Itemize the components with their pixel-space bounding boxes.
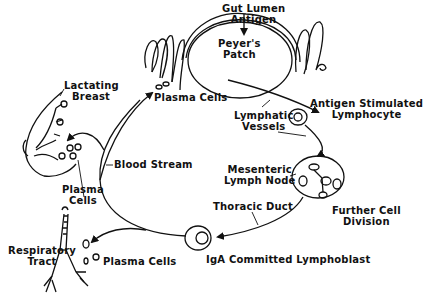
tract-label: Tract: [8, 256, 76, 267]
mesenteric-label: Mesenteric: [224, 164, 296, 175]
antigen-stimulated-lymphocyte-label: Antigen Stimulated Lymphocyte: [310, 98, 423, 120]
respiratory-label: Respiratory: [8, 245, 76, 256]
antigen-label: Antigen: [222, 14, 285, 25]
respiratory-tract-label: Respiratory Tract: [8, 245, 76, 267]
intestinal-villi-right: [296, 22, 326, 74]
antigen-stimulated-label: Antigen Stimulated: [310, 98, 423, 109]
gut-lumen-label: Gut Lumen: [222, 3, 285, 14]
peyers-label: Peyer's: [218, 38, 261, 49]
plasma-cells-resp-label: Plasma Cells: [103, 256, 176, 267]
lactating-breast-shape: [23, 92, 76, 176]
plasma-label: Plasma: [62, 184, 104, 195]
lymphatic-label: Lymphatic: [234, 110, 294, 121]
lymphatic-vessels-label: Lymphatic Vessels: [234, 110, 294, 132]
further-cell-label: Further Cell: [332, 205, 401, 216]
peyers-patch-label: Peyer's Patch: [218, 38, 261, 60]
mesenteric-lymph-node-label: Mesenteric Lymph Node: [224, 164, 296, 186]
vessels-label: Vessels: [234, 121, 294, 132]
lymph-node-label: Lymph Node: [224, 175, 296, 186]
lactating-label: Lactating: [64, 80, 119, 91]
peyers-patch-shape: [188, 22, 292, 98]
iga-lymphoblast-shape: [185, 226, 211, 250]
thoracic-duct-label: Thoracic Duct: [213, 201, 293, 212]
plasma-cells-breast-label: Plasma Cells: [62, 184, 104, 206]
division-label: Division: [332, 216, 401, 227]
gut-lumen-antigen-label: Gut Lumen Antigen: [222, 3, 285, 25]
iga-committed-lymphoblast-label: IgA Committed Lymphoblast: [206, 254, 370, 265]
breast-label: Breast: [64, 91, 119, 102]
patch-label: Patch: [218, 49, 261, 60]
cells-label: Cells: [62, 195, 104, 206]
plasma-cells-gut-label: Plasma Cells: [154, 92, 227, 103]
further-cell-division-label: Further Cell Division: [332, 205, 401, 227]
lymphocyte-label: Lymphocyte: [310, 109, 423, 120]
blood-stream-label: Blood Stream: [114, 159, 193, 170]
lactating-breast-label: Lactating Breast: [64, 80, 119, 102]
